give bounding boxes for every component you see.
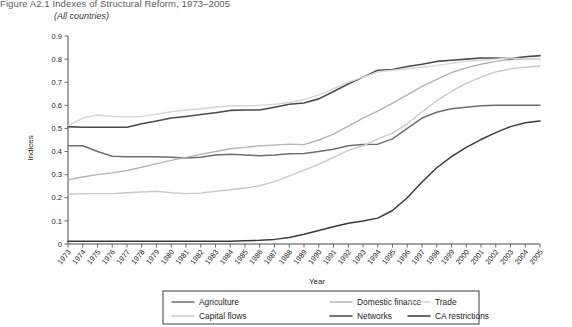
y-axis-label: Indices	[26, 135, 35, 160]
x-tick-label: 1999	[439, 248, 456, 267]
legend-label-ca-restrictions: CA restrictions	[435, 311, 489, 321]
x-tick-label: 1981	[174, 248, 191, 267]
y-tick-label: 0.4	[51, 147, 62, 156]
legend-label-agriculture: Agriculture	[199, 297, 239, 307]
y-tick-label: 0.8	[51, 55, 62, 64]
x-tick-label: 1992	[336, 248, 353, 267]
y-tick-label: 0.2	[51, 193, 62, 202]
legend-label-networks: Networks	[357, 311, 392, 321]
series-line-capital-flows	[68, 66, 540, 194]
x-tick-label: 1986	[247, 248, 264, 267]
x-tick-label: 1991	[321, 248, 338, 267]
figure-subtitle: (All countries)	[54, 11, 109, 21]
x-tick-label: 1984	[218, 248, 235, 267]
x-tick-label: 2004	[513, 248, 530, 267]
series-line-domestic-finance	[68, 59, 540, 180]
x-axis-label: Year	[309, 277, 326, 286]
chart-legend: AgricultureCapital flowsDomestic finance…	[163, 291, 489, 324]
y-tick-label: 0.1	[51, 217, 62, 226]
x-tick-label: 1974	[70, 248, 87, 267]
x-tick-label: 1993	[351, 248, 368, 267]
x-tick-label: 1975	[85, 248, 102, 267]
x-tick-label: 1978	[129, 248, 146, 267]
x-tick-label: 1996	[395, 248, 412, 267]
legend-label-capital-flows: Capital flows	[199, 311, 246, 321]
x-tick-label: 2001	[469, 248, 486, 267]
y-tick-label: 0.6	[51, 101, 62, 110]
x-tick-label: 1980	[159, 248, 176, 267]
x-tick-label: 1983	[203, 248, 220, 267]
x-tick-label: 1997	[410, 248, 427, 267]
x-tick-label: 1989	[292, 248, 309, 267]
y-tick-label: 0	[58, 240, 62, 249]
x-tick-label: 1998	[424, 248, 441, 267]
series-line-ca-restrictions	[68, 121, 540, 241]
y-tick-label: 0.7	[51, 78, 62, 87]
x-tick-label: 2003	[498, 248, 515, 267]
x-tick-label: 1990	[306, 248, 323, 267]
y-tick-label: 0.9	[51, 32, 62, 41]
x-tick-label: 1976	[100, 248, 117, 267]
x-tick-label: 1995	[380, 248, 397, 267]
y-tick-label: 0.5	[51, 124, 62, 133]
legend-label-trade: Trade	[435, 297, 457, 307]
x-tick-label: 1979	[144, 248, 161, 267]
x-tick-label: 1994	[365, 248, 382, 267]
x-tick-label: 1977	[115, 248, 132, 267]
y-tick-label: 0.3	[51, 170, 62, 179]
plot-area: 00.10.20.30.40.50.60.70.80.9197319741975…	[51, 32, 544, 266]
x-tick-label: 2002	[483, 248, 500, 267]
x-tick-label: 1985	[233, 248, 250, 267]
x-tick-label: 1987	[262, 248, 279, 267]
series-line-trade	[68, 58, 540, 126]
figure-title: Figure A2.1 Indexes of Structural Reform…	[0, 0, 230, 9]
x-tick-label: 2005	[528, 248, 545, 267]
x-tick-label: 1988	[277, 248, 294, 267]
series-line-agriculture	[68, 105, 540, 158]
x-tick-label: 2000	[454, 248, 471, 267]
x-tick-label: 1973	[56, 248, 73, 267]
x-tick-label: 1982	[188, 248, 205, 267]
